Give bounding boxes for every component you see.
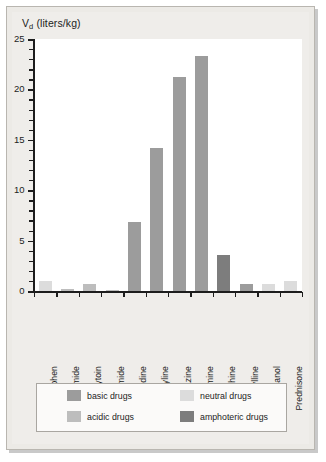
bar (195, 56, 208, 291)
bar (39, 281, 52, 291)
plot-area: 0510152025 (34, 39, 302, 291)
legend-entry-neutral: neutral drugs (180, 390, 251, 401)
legend-entry-amphoteric: amphoteric drugs (180, 411, 268, 422)
x-axis-tick (302, 292, 303, 297)
y-axis-minor-tick (29, 220, 34, 221)
chart-axis-title-units: (liters/kg) (33, 17, 80, 29)
y-axis-minor-tick (29, 99, 34, 100)
x-axis-category-labels: AcetaminophenFurosemidePhenytoinTolbutam… (34, 296, 302, 368)
y-axis-minor-tick (29, 281, 34, 282)
bar (61, 289, 74, 291)
y-axis-tick-label: 0 (19, 285, 24, 296)
bar (262, 284, 275, 291)
y-axis-tick-label: 20 (14, 83, 25, 94)
bar (106, 290, 119, 292)
legend-label-amphoteric: amphoteric drugs (200, 412, 268, 422)
y-axis-minor-tick (29, 180, 34, 181)
legend-swatch-amphoteric (180, 411, 194, 422)
legend-swatch-acidic (67, 411, 81, 422)
y-axis-minor-tick (29, 160, 34, 161)
y-axis-minor-tick (29, 170, 34, 171)
plot-background (34, 39, 302, 291)
y-axis-tick-label: 10 (14, 184, 25, 195)
y-axis-minor-tick (29, 210, 34, 211)
y-axis-major-tick: 25 (28, 39, 35, 41)
legend-swatch-basic (67, 390, 81, 401)
bar (150, 148, 163, 291)
y-axis-tick-label: 25 (14, 33, 25, 44)
y-axis-major-tick: 5 (28, 241, 35, 243)
legend-label-acidic: acidic drugs (87, 412, 134, 422)
y-axis-minor-tick (29, 261, 34, 262)
y-axis-minor-tick (29, 231, 34, 232)
bar (83, 284, 96, 291)
chart-axis-title: Vd (liters/kg) (22, 17, 81, 29)
legend-swatch-neutral (180, 390, 194, 401)
y-axis-tick-label: 5 (19, 235, 24, 246)
y-axis-major-tick: 15 (28, 140, 35, 142)
y-axis-major-tick: 10 (28, 190, 35, 192)
y-axis-minor-tick (29, 110, 34, 111)
bar (128, 222, 141, 291)
y-axis-line (33, 39, 35, 291)
y-axis-tick-label: 15 (14, 134, 25, 145)
chart-axis-title-subscript: d (29, 22, 33, 31)
y-axis-minor-tick (29, 79, 34, 80)
legend-entry-basic: basic drugs (67, 390, 132, 401)
y-axis-minor-tick (29, 69, 34, 70)
y-axis-minor-tick (29, 59, 34, 60)
y-axis-minor-tick (29, 120, 34, 121)
legend-entry-acidic: acidic drugs (67, 411, 134, 422)
y-axis-minor-tick (29, 150, 34, 151)
legend-label-neutral: neutral drugs (200, 391, 251, 401)
y-axis-minor-tick (29, 271, 34, 272)
chart-legend: basic drugsneutral drugsacidic drugsamph… (36, 383, 287, 432)
bar (173, 77, 186, 291)
x-axis-category-label: Prednisone (294, 366, 304, 410)
figure-panel: Vd (liters/kg) 0510152025 AcetaminophenF… (0, 0, 326, 462)
y-axis-major-tick: 20 (28, 89, 35, 91)
y-axis-minor-tick (29, 49, 34, 50)
y-axis-minor-tick (29, 251, 34, 252)
y-axis-minor-tick (29, 130, 34, 131)
legend-label-basic: basic drugs (87, 391, 132, 401)
y-axis-minor-tick (29, 200, 34, 201)
bar (217, 255, 230, 291)
bar (240, 284, 253, 291)
bar (284, 281, 297, 291)
